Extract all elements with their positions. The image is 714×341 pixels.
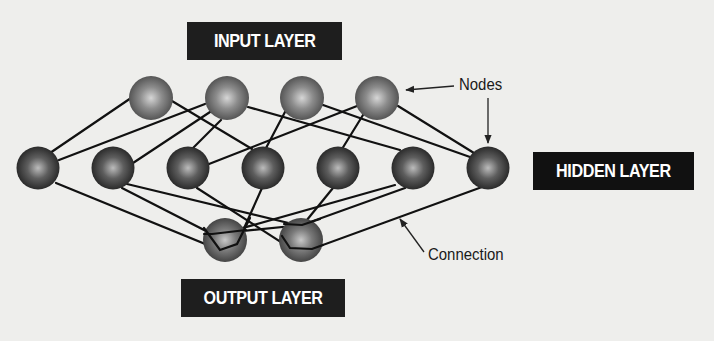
input-node (129, 76, 173, 120)
hidden-layer-text: HIDDEN LAYER (556, 160, 671, 182)
connection-line (266, 112, 285, 148)
input-layer-text: INPUT LAYER (214, 30, 316, 52)
output-layer-text: OUTPUT LAYER (203, 287, 322, 309)
connection-callout-text: Connection (428, 245, 504, 265)
hidden-node (467, 147, 510, 190)
hidden-node (392, 147, 435, 190)
hidden-node (242, 147, 285, 190)
hidden-node (167, 147, 210, 190)
input-layer-label: INPUT LAYER (187, 22, 342, 60)
hidden-layer-label: HIDDEN LAYER (533, 152, 694, 190)
connections-hidden-output (56, 183, 482, 250)
hidden-node (92, 147, 135, 190)
hidden-node (17, 147, 60, 190)
connection-line (342, 115, 363, 149)
input-node (205, 76, 249, 120)
output-node (203, 218, 247, 262)
hidden-node (317, 147, 360, 190)
nodes-callout-text: Nodes (459, 75, 502, 95)
nodes-callout: Nodes (459, 75, 508, 95)
connection-arrow (400, 219, 424, 252)
input-node (280, 76, 324, 120)
connection-callout: Connection (428, 245, 514, 265)
input-layer-nodes (129, 76, 399, 120)
input-node (355, 76, 399, 120)
output-layer-label: OUTPUT LAYER (181, 279, 345, 317)
connection-line (50, 98, 131, 153)
hidden-layer-nodes (17, 147, 510, 190)
nodes-arrow-to-input-node (406, 86, 454, 90)
connection-line (193, 120, 221, 148)
